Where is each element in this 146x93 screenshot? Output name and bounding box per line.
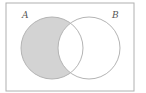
venn-diagram: A B [0, 0, 146, 93]
set-b-label: B [111, 10, 119, 20]
set-a-label: A [21, 10, 29, 20]
